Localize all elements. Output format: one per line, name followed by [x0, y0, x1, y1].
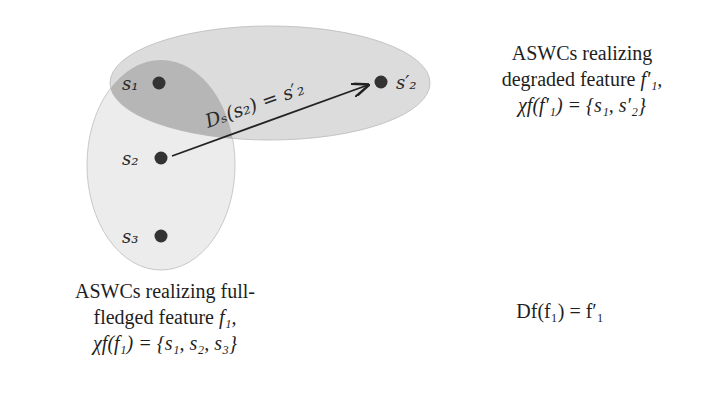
node-s1-label: s₁	[122, 73, 138, 94]
degraded-caption-line1: ASWCs realizing	[462, 40, 702, 66]
full-caption-line1: ASWCs realizing full-	[30, 278, 300, 304]
node-s2-dot	[155, 152, 168, 165]
full-caption-set: χf(f₁) = {s₁, s₂, s₃}	[30, 330, 300, 356]
node-s2-prime-dot	[375, 76, 388, 89]
full-feature-caption: ASWCs realizing full- fledged feature f₁…	[30, 278, 300, 356]
degraded-caption-line2-math: f′₁,	[640, 68, 662, 90]
degraded-caption-set: χf(f′₁) = {s₁, s′₂}	[462, 92, 702, 118]
node-s1-dot	[153, 77, 166, 90]
feature-mapping-formula: Df(f₁) = f′₁	[470, 298, 650, 324]
degraded-caption-line2: degraded feature f′₁,	[462, 66, 702, 92]
full-caption-line2-math: f₁,	[219, 306, 237, 328]
node-s3-dot	[155, 230, 168, 243]
node-s2-label: s₂	[122, 148, 138, 169]
node-s3-label: s₃	[122, 226, 138, 247]
degraded-feature-caption: ASWCs realizing degraded feature f′₁, χf…	[462, 40, 702, 118]
node-s2-prime-label: s′₂	[396, 72, 417, 93]
degraded-caption-line2-text: degraded feature	[502, 68, 641, 90]
full-caption-line2-text: fledged feature	[94, 306, 219, 328]
full-caption-line2: fledged feature f₁,	[30, 304, 300, 330]
